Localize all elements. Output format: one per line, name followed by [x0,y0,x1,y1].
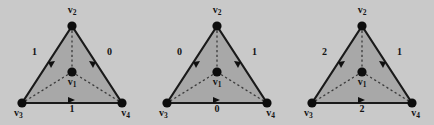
edge-weight-right: 1 [252,47,257,57]
vertex-dot-v2 [212,21,221,30]
edge-weight-left: 0 [177,47,182,57]
vertex-label-v3: v3 [159,108,168,118]
edge-weight-bottom: 2 [360,104,365,114]
vertex-label-v2: v2 [213,5,222,15]
triangle-panel-3: v2 v1 v3 v4 2 1 2 [290,0,434,125]
triangle-diagram-figure: v2 v1 v3 v4 1 0 1 v2 v1 v3 v4 0 1 0 [0,0,434,125]
edge-weight-right: 1 [397,47,402,57]
vertex-label-v2: v2 [358,5,367,15]
vertex-dot-v2 [357,21,366,30]
vertex-label-v3: v3 [304,108,313,118]
vertex-label-v4: v4 [266,108,275,118]
vertex-label-v2: v2 [68,5,77,15]
vertex-label-v3: v3 [14,108,23,118]
vertex-label-v4: v4 [121,108,130,118]
edge-weight-left: 1 [32,47,37,57]
edge-weight-bottom: 1 [70,104,75,114]
edge-weight-right: 0 [107,47,112,57]
edge-weight-bottom: 0 [215,104,220,114]
vertex-label-v1: v1 [358,77,367,87]
edge-weight-left: 2 [322,47,327,57]
vertex-dot-v2 [67,21,76,30]
triangle-panel-1: v2 v1 v3 v4 1 0 1 [0,0,144,125]
vertex-label-v1: v1 [68,77,77,87]
triangle-panel-2: v2 v1 v3 v4 0 1 0 [145,0,289,125]
vertex-label-v1: v1 [213,77,222,87]
vertex-label-v4: v4 [411,108,420,118]
